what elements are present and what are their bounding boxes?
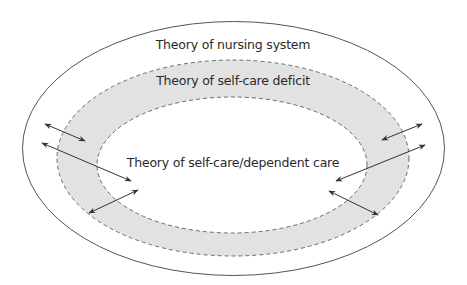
self-care-dependent-care-label: Theory of self-care/dependent care xyxy=(127,155,340,170)
nursing-system-label: Theory of nursing system xyxy=(156,37,311,52)
diagram-canvas: Theory of nursing system Theory of self-… xyxy=(0,0,467,285)
self-care-deficit-label: Theory of self-care deficit xyxy=(156,73,310,88)
